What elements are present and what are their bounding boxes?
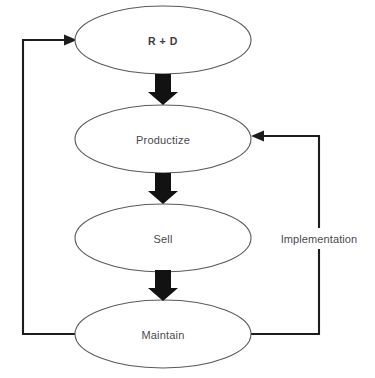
node-sell[interactable]: Sell [75,204,251,272]
node-maintain[interactable]: Maintain [75,300,251,368]
down-arrow-icon [148,270,178,301]
feedback-loop-maintain-to-productize-upper-path [259,136,319,228]
node-rd[interactable]: R + D [75,6,251,74]
flow-arrow-rd-to-productize [148,74,178,105]
feedback-loop-maintain-to-productize-arrowhead [251,131,264,142]
node-sell-label: Sell [153,233,172,245]
down-arrow-icon [148,173,178,204]
node-productize-label: Productize [136,134,190,146]
flow-arrow-sell-to-maintain [148,270,178,301]
flow-diagram: Implementation R + D Productize Sell Mai… [0,0,375,378]
feedback-loop-maintain-to-productize: Implementation [251,131,368,335]
feedback-loop-maintain-to-rd-path [23,40,76,334]
feedback-loop-maintain-to-rd [23,35,77,335]
diagram-canvas: Implementation R + D Productize Sell Mai… [0,0,375,378]
feedback-loop-maintain-to-productize-lower-path [251,248,319,334]
flow-arrow-productize-to-sell [148,173,178,204]
node-maintain-label: Maintain [141,329,184,341]
node-productize[interactable]: Productize [75,105,251,173]
implementation-label: Implementation [281,233,358,245]
node-rd-label: R + D [148,35,178,47]
down-arrow-icon [148,74,178,105]
